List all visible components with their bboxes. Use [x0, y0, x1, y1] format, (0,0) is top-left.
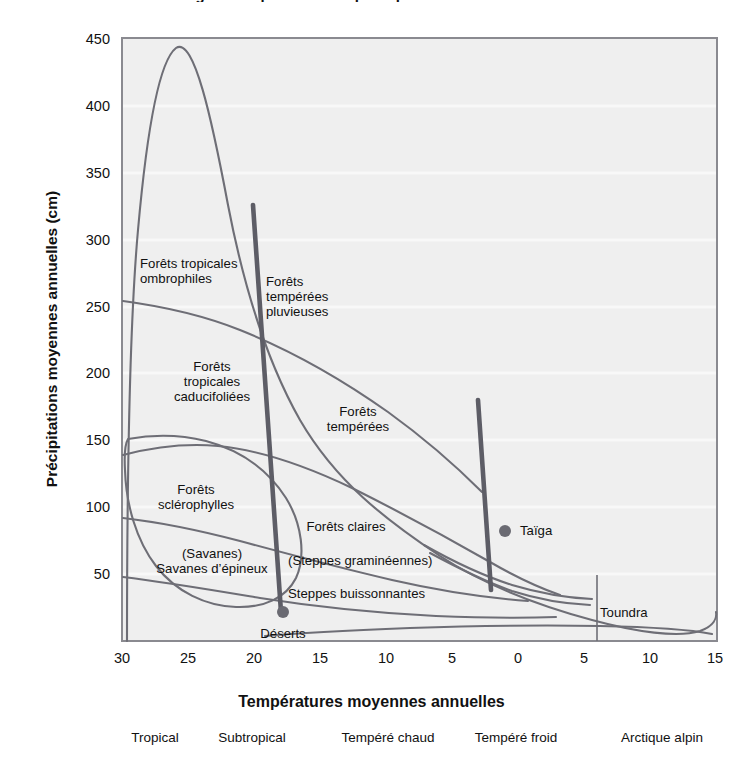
biome-label-woodland: Forêts claires: [306, 520, 385, 535]
biome-label-tundra: Toundra: [600, 606, 648, 621]
desert-marker: [277, 606, 289, 618]
climate-zone-band: Tropical Subtropical Tempéré chaud Tempé…: [0, 730, 743, 750]
taiga-marker: [499, 525, 511, 537]
climate-zone-subtropical: Subtropical: [218, 730, 286, 745]
climate-zone-tropical: Tropical: [131, 730, 179, 745]
biome-label-temperate-rainforest: Forêts tempérées pluvieuses: [266, 275, 328, 319]
biome-label-temperate-forest: Forêts tempérées: [327, 405, 389, 435]
climate-zone-arctic-alpine: Arctique alpin: [621, 730, 703, 745]
climate-zone-warm-temperate: Tempéré chaud: [341, 730, 434, 745]
biome-label-sclerophyll-forest: Forêts sclérophylles: [158, 483, 234, 513]
biome-label-shrub-steppe: Steppes buissonnantes: [288, 587, 425, 602]
biome-diagram-figure: Figure : Répartition des principaux biom…: [0, 0, 743, 781]
biome-label-savanna: (Savanes) Savanes d’épineux: [156, 547, 267, 577]
plot-area: [0, 0, 743, 781]
biome-label-desert: Déserts: [260, 627, 305, 642]
climate-zone-cold-temperate: Tempéré froid: [475, 730, 558, 745]
biome-label-grassland-steppe: (Steppes graminéennes): [288, 554, 432, 569]
biome-label-taiga: Taïga: [520, 524, 552, 539]
biome-label-tropical-deciduous-forest: Forêts tropicales caducifoliées: [174, 360, 250, 404]
biome-label-tropical-rainforest: Forêts tropicales ombrophiles: [140, 257, 237, 287]
